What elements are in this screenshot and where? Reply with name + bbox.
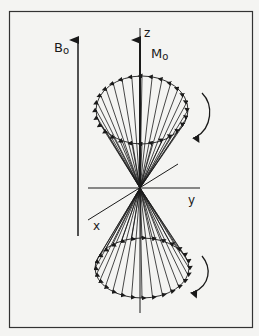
y-axis-label: y — [188, 193, 195, 207]
spin-vector — [140, 102, 187, 188]
lower-precession-arrow-icon — [194, 256, 208, 292]
spin-vector — [140, 188, 171, 292]
spin-vector — [140, 188, 162, 295]
upper-precession-arrow-icon — [196, 93, 210, 137]
lower-cone — [95, 188, 189, 298]
x-axis-label: x — [93, 219, 100, 233]
m0-label: Mo — [151, 46, 168, 62]
b0-label: Bo — [54, 40, 69, 56]
spin-vector — [97, 102, 140, 188]
spin-vector — [140, 188, 171, 245]
z-axis-label: z — [144, 26, 150, 40]
upper-cone — [96, 76, 188, 188]
spin-vector — [140, 83, 171, 188]
nmr-precession-diagram: Bo z Mo y x — [0, 0, 259, 336]
spin-vector — [106, 89, 140, 188]
spin-vector — [140, 188, 184, 281]
